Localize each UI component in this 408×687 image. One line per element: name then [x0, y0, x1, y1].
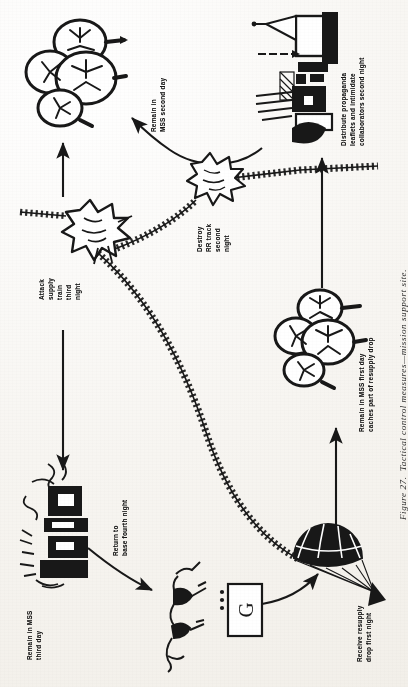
guerrilla-figures-icon — [148, 556, 218, 672]
village-buildings-icon — [18, 460, 104, 592]
label-line: MSS second day — [159, 78, 166, 132]
label-line: night — [74, 283, 81, 300]
label-line: drop first night — [365, 613, 372, 662]
tree-cluster-icon — [20, 16, 128, 128]
label-line: Remain in MSS — [26, 611, 33, 660]
label-line: Remain in — [150, 99, 157, 132]
label-line: third — [65, 285, 72, 300]
label-line: Remain in MSS first day — [358, 353, 365, 432]
echelon-dots-icon — [220, 590, 224, 610]
label-line: second — [214, 228, 221, 252]
explosion-icon — [60, 196, 134, 266]
label-line: Return to — [112, 525, 119, 556]
label-line: Destroy — [196, 226, 203, 252]
tree-cluster-icon — [272, 288, 368, 392]
label-line: Attack — [38, 279, 45, 300]
label-line: caches part of resupply drop — [367, 337, 374, 432]
figure-caption: Figure 27. Tactical control measures—mis… — [398, 269, 408, 520]
parachute-icon — [290, 524, 386, 616]
figure-page: G Remain in MSS second day Distribute pr… — [0, 0, 408, 687]
label-line: third day — [35, 631, 42, 660]
label-line: base fourth night — [121, 500, 128, 556]
label-line: collaborators second night — [358, 57, 365, 146]
village-buildings-icon — [252, 10, 340, 152]
unit-box-letter: G — [234, 602, 258, 617]
explosion-icon — [186, 150, 248, 208]
label-line: train — [56, 285, 63, 300]
military-unit-box-icon[interactable]: G — [218, 580, 264, 644]
label-line: night — [223, 235, 230, 252]
label-line: Receive resupply — [356, 605, 363, 662]
label-line: leaflets and intimidate — [349, 73, 356, 146]
label-line: RR track — [205, 224, 212, 252]
label-line: Distribute propaganda — [340, 73, 347, 146]
label-line: supply — [47, 278, 54, 300]
